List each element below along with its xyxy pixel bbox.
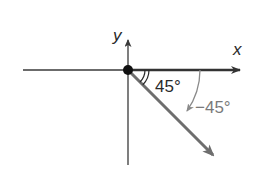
directed-angle-label: −45° <box>195 98 231 117</box>
x-axis-label: x <box>232 40 242 59</box>
reference-angle-arc-inner <box>140 70 145 82</box>
vertex-point <box>123 65 133 75</box>
angle-diagram: y x 45° −45° <box>0 0 259 175</box>
y-axis-label: y <box>112 26 123 45</box>
reference-angle-label: 45° <box>155 77 181 96</box>
